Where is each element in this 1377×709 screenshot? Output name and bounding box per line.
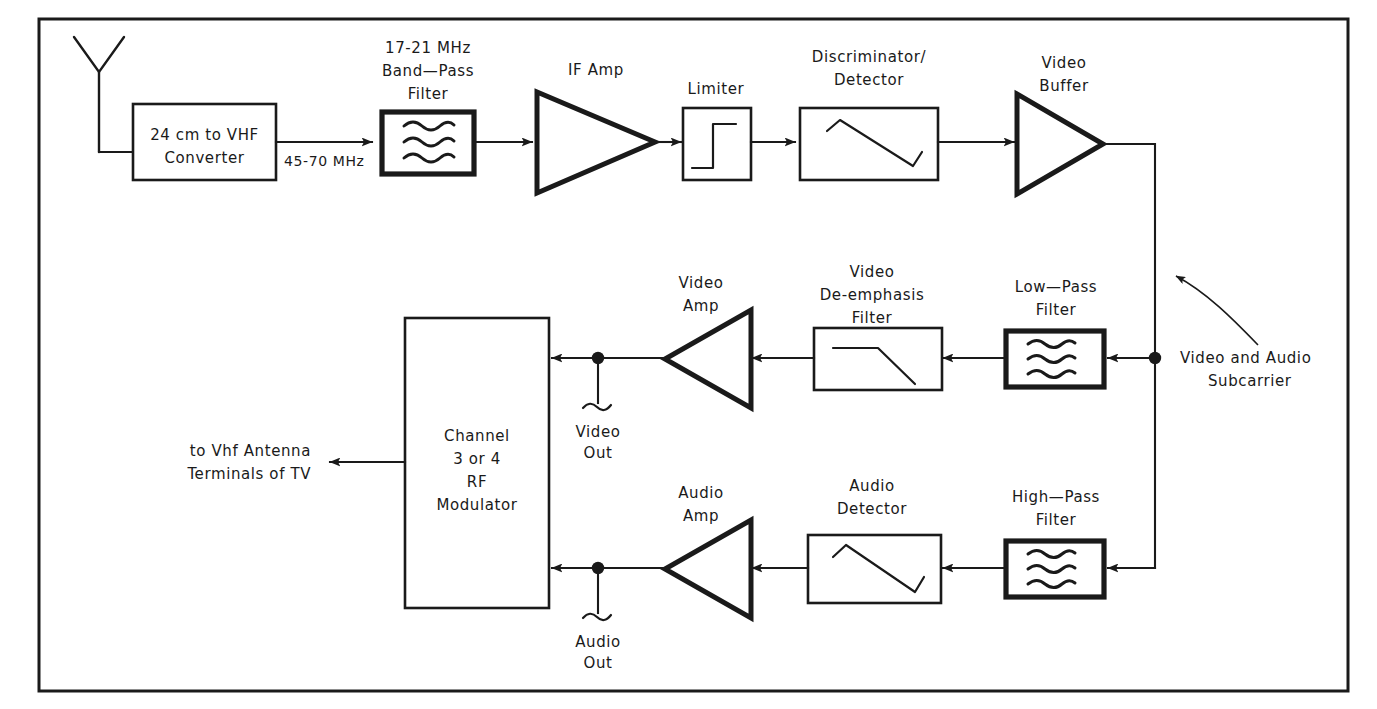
discriminator-label-line-2: Detector (834, 71, 904, 89)
video-amp-label-line-1: Video (678, 274, 723, 292)
lowpass-label-line-2: Filter (1036, 301, 1077, 319)
label-converter-output-freq: 45-70 MHz (284, 153, 365, 169)
video-buffer-label-line-2: Buffer (1039, 77, 1089, 95)
video-amp-label-line-2: Amp (683, 297, 719, 315)
block-highpass-filter[interactable]: High—Pass Filter (1006, 488, 1104, 597)
wire-subcarrier-trunk (1101, 144, 1155, 568)
subcarrier-label-line-1: Video and Audio (1180, 349, 1311, 367)
highpass-label-line-1: High—Pass (1012, 488, 1100, 506)
tv-output-label-line-1: to Vhf Antenna (190, 442, 311, 460)
terminal-squiggle-icon (583, 614, 611, 620)
rf-modulator-label-line-2: 3 or 4 (453, 450, 501, 468)
block-limiter[interactable]: Limiter (683, 80, 751, 180)
block-audio-detector[interactable]: Audio Detector (808, 477, 941, 603)
subcarrier-callout-arrow (1176, 276, 1258, 345)
deemphasis-label-line-3: Filter (852, 309, 893, 327)
audio-out-label-line-1: Audio (575, 633, 621, 651)
if-amp-label: IF Amp (568, 61, 624, 79)
block-rf-modulator[interactable]: Channel 3 or 4 RF Modulator (405, 318, 549, 608)
block-video-amp[interactable]: Video Amp (665, 274, 751, 408)
block-converter[interactable]: 24 cm to VHF Converter (133, 104, 276, 180)
annotation-subcarrier-callout: Video and Audio Subcarrier (1176, 276, 1311, 390)
tap-audio-out[interactable]: Audio Out (575, 568, 621, 672)
audio-out-label-line-2: Out (584, 654, 613, 672)
audio-detector-label-line-2: Detector (837, 500, 907, 518)
bandpass-label-line-2: Band—Pass (382, 62, 474, 80)
block-bandpass-filter[interactable]: 17-21 MHz Band—Pass Filter (382, 39, 474, 174)
bandpass-label-line-3: Filter (408, 85, 449, 103)
video-out-label-line-1: Video (575, 423, 620, 441)
deemphasis-label-line-1: Video (849, 263, 894, 281)
tap-video-out[interactable]: Video Out (575, 358, 620, 462)
rf-modulator-label-line-4: Modulator (436, 496, 517, 514)
converter-label-line-2: Converter (164, 149, 244, 167)
highpass-label-line-2: Filter (1036, 511, 1077, 529)
block-audio-amp[interactable]: Audio Amp (665, 484, 751, 618)
receive-antenna (74, 37, 133, 152)
converter-label-line-1: 24 cm to VHF (150, 126, 259, 144)
discriminator-label-line-1: Discriminator/ (812, 48, 927, 66)
audio-amp-label-line-1: Audio (678, 484, 724, 502)
limiter-label: Limiter (688, 80, 745, 98)
deemphasis-label-line-2: De-emphasis (820, 286, 925, 304)
video-out-label-line-2: Out (584, 444, 613, 462)
block-video-buffer[interactable]: Video Buffer (1017, 54, 1103, 194)
rf-modulator-label-line-3: RF (467, 473, 487, 491)
audio-amp-label-line-2: Amp (683, 507, 719, 525)
block-de-emphasis-filter[interactable]: Video De-emphasis Filter (814, 263, 942, 390)
block-diagram: 24 cm to VHF Converter 45-70 MHz 17-21 M… (0, 0, 1377, 709)
bandpass-label-line-1: 17-21 MHz (385, 39, 471, 57)
video-buffer-label-line-1: Video (1041, 54, 1086, 72)
terminal-squiggle-icon (583, 404, 611, 410)
diagram-canvas: 24 cm to VHF Converter 45-70 MHz 17-21 M… (0, 0, 1377, 709)
block-discriminator[interactable]: Discriminator/ Detector (800, 48, 938, 180)
annotation-tv-output-callout: to Vhf Antenna Terminals of TV (186, 442, 405, 483)
tv-output-label-line-2: Terminals of TV (186, 465, 311, 483)
rf-modulator-label-line-1: Channel (444, 427, 510, 445)
block-lowpass-filter[interactable]: Low—Pass Filter (1006, 278, 1104, 387)
block-if-amp[interactable]: IF Amp (537, 61, 655, 193)
audio-detector-label-line-1: Audio (849, 477, 895, 495)
lowpass-label-line-1: Low—Pass (1015, 278, 1098, 296)
subcarrier-label-line-2: Subcarrier (1208, 372, 1292, 390)
